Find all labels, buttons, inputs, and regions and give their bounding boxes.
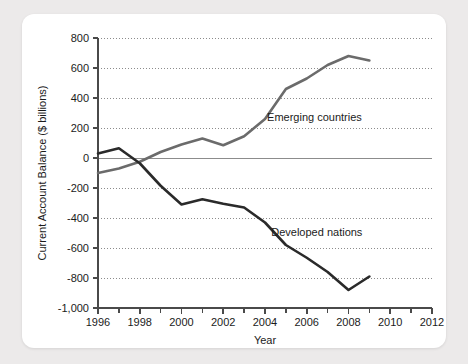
x-tick-label: 2008 bbox=[336, 316, 360, 328]
y-tick-label: -200 bbox=[67, 182, 89, 194]
y-tick-label: -400 bbox=[67, 212, 89, 224]
y-tick-label: -800 bbox=[67, 272, 89, 284]
x-tick-labels-group: 199619982000200220042006200820102012 bbox=[86, 316, 444, 328]
series-annotations-group: Emerging countriesDeveloped nations bbox=[267, 111, 363, 239]
y-tick-label: 200 bbox=[71, 122, 89, 134]
data-series-group bbox=[98, 56, 369, 290]
x-tick-label: 2000 bbox=[169, 316, 193, 328]
y-tick-label: -1,000 bbox=[58, 302, 89, 314]
figure-root: 8006004002000-200-400-600-800-1,000 1996… bbox=[0, 0, 468, 364]
y-tick-label: 400 bbox=[71, 92, 89, 104]
x-ticks-group bbox=[98, 308, 432, 314]
y-axis-title: Current Account Balance ($ billions) bbox=[36, 86, 48, 261]
x-tick-label: 1998 bbox=[128, 316, 152, 328]
y-tick-label: 600 bbox=[71, 62, 89, 74]
x-axis-title: Year bbox=[254, 334, 277, 346]
series-label: Emerging countries bbox=[267, 111, 362, 123]
y-tick-label: 0 bbox=[83, 152, 89, 164]
series-label: Developed nations bbox=[271, 226, 363, 238]
line-chart: 8006004002000-200-400-600-800-1,000 1996… bbox=[0, 0, 468, 364]
x-tick-label: 2010 bbox=[378, 316, 402, 328]
x-tick-label: 2002 bbox=[211, 316, 235, 328]
y-tick-labels-group: 8006004002000-200-400-600-800-1,000 bbox=[58, 32, 89, 314]
series-line bbox=[98, 148, 369, 290]
y-tick-label: -600 bbox=[67, 242, 89, 254]
x-tick-label: 2004 bbox=[253, 316, 277, 328]
x-tick-label: 2012 bbox=[420, 316, 444, 328]
x-tick-label: 2006 bbox=[295, 316, 319, 328]
y-tick-label: 800 bbox=[71, 32, 89, 44]
x-tick-label: 1996 bbox=[86, 316, 110, 328]
